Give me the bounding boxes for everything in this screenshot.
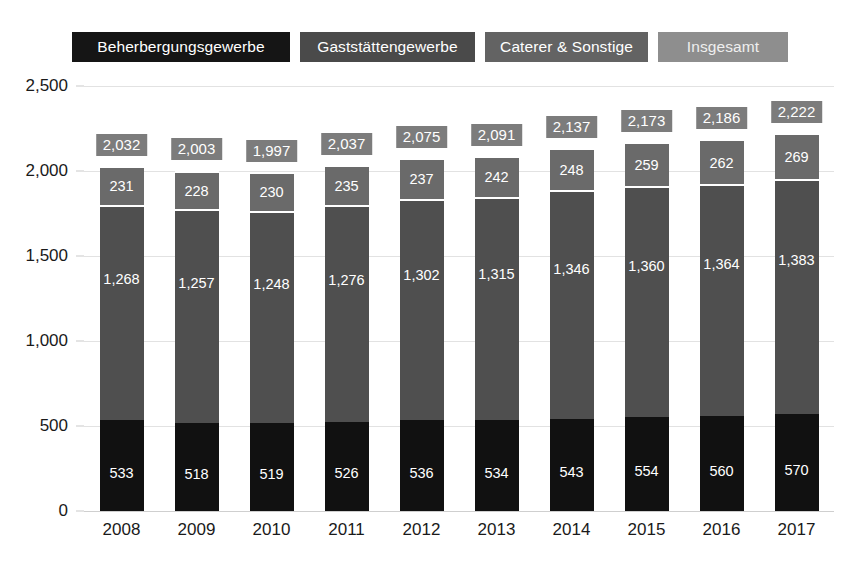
bar-segment-gastst-ttengewerbe[interactable]: 1,302 xyxy=(400,199,444,420)
total-badge-value: 2,037 xyxy=(328,135,366,152)
bar-segment-caterer-sonstige[interactable]: 237 xyxy=(400,158,444,198)
x-axis-tick-label: 2013 xyxy=(478,520,516,540)
bar-segment-value: 1,302 xyxy=(403,267,439,283)
bar-segment-caterer-sonstige[interactable]: 269 xyxy=(775,133,819,179)
plot-area: 2311,2685332,0322281,2575182,0032301,248… xyxy=(84,86,834,511)
bar-group-2014[interactable]: 2481,346543 xyxy=(550,148,594,511)
x-axis-tick-label: 2012 xyxy=(403,520,441,540)
bar-segment-caterer-sonstige[interactable]: 228 xyxy=(175,171,219,210)
y-axis-tick-mark xyxy=(76,256,84,257)
bar-segment-value: 1,268 xyxy=(103,271,139,287)
legend-item-3[interactable]: Insgesamt xyxy=(658,32,788,62)
bar-segment-beherbergungsgewerbe[interactable]: 534 xyxy=(475,420,519,511)
bar-group-2017[interactable]: 2691,383570 xyxy=(775,133,819,511)
bar-segment-beherbergungsgewerbe[interactable]: 560 xyxy=(700,416,744,511)
bar-segment-gastst-ttengewerbe[interactable]: 1,346 xyxy=(550,190,594,419)
bar-segment-value: 1,383 xyxy=(778,252,814,268)
y-axis-tick-label: 500 xyxy=(40,416,68,436)
bar-group-2015[interactable]: 2591,360554 xyxy=(625,142,669,511)
bar-segment-beherbergungsgewerbe[interactable]: 554 xyxy=(625,417,669,511)
bar-segment-caterer-sonstige[interactable]: 242 xyxy=(475,156,519,197)
bar-segment-gastst-ttengewerbe[interactable]: 1,268 xyxy=(100,205,144,421)
x-axis-tick-label: 2008 xyxy=(103,520,141,540)
bar-segment-value: 560 xyxy=(709,463,733,479)
bar-segment-caterer-sonstige[interactable]: 230 xyxy=(250,172,294,211)
chart-legend: BeherbergungsgewerbeGaststättengewerbeCa… xyxy=(72,32,834,62)
bar-segment-gastst-ttengewerbe[interactable]: 1,383 xyxy=(775,179,819,414)
bar-group-2011[interactable]: 2351,276526 xyxy=(325,165,369,511)
bar-segment-value: 1,364 xyxy=(703,256,739,272)
total-badge-2010: 1,997 xyxy=(246,140,298,162)
bar-segment-caterer-sonstige[interactable]: 262 xyxy=(700,139,744,184)
bar-segment-gastst-ttengewerbe[interactable]: 1,315 xyxy=(475,197,519,421)
total-badge-2016: 2,186 xyxy=(696,107,748,129)
bar-segment-caterer-sonstige[interactable]: 231 xyxy=(100,166,144,205)
bar-segment-gastst-ttengewerbe[interactable]: 1,364 xyxy=(700,184,744,416)
bar-segment-value: 519 xyxy=(259,466,283,482)
total-badge-value: 2,032 xyxy=(103,136,141,153)
bar-segment-value: 230 xyxy=(259,184,283,200)
legend-item-2[interactable]: Caterer & Sonstige xyxy=(485,32,648,62)
total-badge-value: 2,091 xyxy=(478,126,516,143)
bar-segment-value: 1,248 xyxy=(253,276,289,292)
legend-item-label: Caterer & Sonstige xyxy=(500,38,633,56)
bar-segment-beherbergungsgewerbe[interactable]: 533 xyxy=(100,420,144,511)
total-badge-value: 2,075 xyxy=(403,128,441,145)
bar-segment-beherbergungsgewerbe[interactable]: 570 xyxy=(775,414,819,511)
y-axis-tick-mark xyxy=(76,341,84,342)
y-axis-tick-label: 1,500 xyxy=(25,246,68,266)
bar-segment-value: 526 xyxy=(334,465,358,481)
total-badge-2013: 2,091 xyxy=(471,124,523,146)
bar-segment-gastst-ttengewerbe[interactable]: 1,360 xyxy=(625,186,669,417)
x-axis: 2008200920102011201220132014201520162017 xyxy=(84,516,834,550)
bar-segment-beherbergungsgewerbe[interactable]: 543 xyxy=(550,419,594,511)
legend-item-label: Insgesamt xyxy=(687,38,759,56)
bar-group-2009[interactable]: 2281,257518 xyxy=(175,171,219,512)
bar-segment-value: 1,360 xyxy=(628,258,664,274)
bar-segment-gastst-ttengewerbe[interactable]: 1,276 xyxy=(325,205,369,422)
x-axis-tick-label: 2017 xyxy=(778,520,816,540)
y-axis-tick-mark xyxy=(76,86,84,87)
total-badge-value: 2,003 xyxy=(178,140,216,157)
bar-segment-beherbergungsgewerbe[interactable]: 519 xyxy=(250,423,294,511)
y-axis-tick-mark xyxy=(76,426,84,427)
x-axis-tick-label: 2011 xyxy=(328,520,365,540)
bar-group-2013[interactable]: 2421,315534 xyxy=(475,156,519,511)
bar-segment-value: 536 xyxy=(409,465,433,481)
total-badge-value: 2,186 xyxy=(703,109,741,126)
total-badge-2011: 2,037 xyxy=(321,133,373,155)
y-axis-tick-label: 2,000 xyxy=(25,161,68,181)
bar-group-2012[interactable]: 2371,302536 xyxy=(400,158,444,511)
legend-item-label: Beherbergungsgewerbe xyxy=(97,38,264,56)
total-badge-value: 1,997 xyxy=(253,142,291,159)
total-badge-2008: 2,032 xyxy=(96,134,148,156)
bar-segment-caterer-sonstige[interactable]: 259 xyxy=(625,142,669,186)
bar-segment-value: 259 xyxy=(634,157,658,173)
bar-segment-beherbergungsgewerbe[interactable]: 526 xyxy=(325,422,369,511)
bar-group-2008[interactable]: 2311,268533 xyxy=(100,166,144,511)
y-axis-tick-label: 0 xyxy=(59,501,68,521)
bar-segment-value: 1,315 xyxy=(478,266,514,282)
total-badge-2015: 2,173 xyxy=(621,110,673,132)
y-axis-tick-label: 1,000 xyxy=(25,331,68,351)
x-axis-tick-label: 2014 xyxy=(553,520,591,540)
bar-segment-caterer-sonstige[interactable]: 235 xyxy=(325,165,369,205)
x-axis-tick-label: 2015 xyxy=(628,520,666,540)
bar-segment-value: 570 xyxy=(784,462,808,478)
legend-item-0[interactable]: Beherbergungsgewerbe xyxy=(72,32,290,62)
bar-segment-gastst-ttengewerbe[interactable]: 1,257 xyxy=(175,209,219,423)
bar-group-2010[interactable]: 2301,248519 xyxy=(250,172,294,511)
bar-group-2016[interactable]: 2621,364560 xyxy=(700,139,744,511)
bar-segment-beherbergungsgewerbe[interactable]: 518 xyxy=(175,423,219,511)
bar-segment-value: 1,257 xyxy=(178,275,214,291)
bar-segment-caterer-sonstige[interactable]: 248 xyxy=(550,148,594,190)
y-axis-tick-mark xyxy=(76,171,84,172)
y-axis-tick-label: 2,500 xyxy=(25,76,68,96)
total-badge-2012: 2,075 xyxy=(396,126,448,148)
legend-item-1[interactable]: Gaststättengewerbe xyxy=(300,32,475,62)
bar-segment-gastst-ttengewerbe[interactable]: 1,248 xyxy=(250,211,294,423)
bar-segment-value: 242 xyxy=(484,169,508,185)
bar-segment-value: 518 xyxy=(184,466,208,482)
bar-segment-beherbergungsgewerbe[interactable]: 536 xyxy=(400,420,444,511)
gridline xyxy=(84,511,834,512)
